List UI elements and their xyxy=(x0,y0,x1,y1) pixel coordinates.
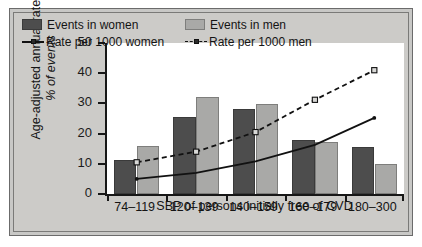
legend-label-rate-per-1000-men: Rate per 1000 men xyxy=(209,35,312,49)
line-marker-men xyxy=(134,160,139,165)
line-marker-women xyxy=(135,177,139,181)
y-axis-tick-label: 20 xyxy=(78,125,92,140)
y-axis-tick-label: 0 xyxy=(85,185,92,200)
legend-item-rate-per-1000-women: Rate per 1000 women xyxy=(22,34,164,49)
line-women xyxy=(137,118,375,179)
y-axis-tick-label: 40 xyxy=(78,64,92,79)
legend-label-events-in-women: Events in women xyxy=(47,18,138,32)
figure-plate: Age-adjusted annual rate, % of events 01… xyxy=(9,8,413,236)
plot-area xyxy=(105,43,404,196)
y-axis-tick-mark xyxy=(98,133,105,135)
legend-row-bars: Events in women Events in men xyxy=(22,17,312,32)
y-axis-tick-mark xyxy=(98,163,105,165)
legend-label-rate-per-1000-women: Rate per 1000 women xyxy=(46,35,164,49)
y-axis-tick-mark xyxy=(98,193,105,195)
figure-container: Age-adjusted annual rate, % of events 01… xyxy=(0,0,422,247)
line-series-layer xyxy=(107,43,406,194)
line-marker-men xyxy=(194,149,199,154)
line-men xyxy=(137,70,375,162)
legend-swatch-events-in-men-icon xyxy=(185,19,205,30)
legend-swatch-events-in-women-icon xyxy=(22,19,42,30)
legend-row-lines: Rate per 1000 women Rate per 1000 men xyxy=(22,34,312,49)
legend-solid-line-icon xyxy=(22,36,44,47)
figure-plate-inner: Age-adjusted annual rate, % of events 01… xyxy=(13,12,409,232)
line-marker-men xyxy=(253,130,258,135)
legend-item-rate-per-1000-men: Rate per 1000 men xyxy=(185,34,312,49)
y-axis-tick-label: 30 xyxy=(78,94,92,109)
y-axis-tick-mark xyxy=(98,102,105,104)
legend-dashed-line-icon xyxy=(185,36,207,47)
line-marker-women xyxy=(372,116,376,120)
legend-label-events-in-men: Events in men xyxy=(210,18,286,32)
y-axis-tick-label: 10 xyxy=(78,155,92,170)
legend-item-events-in-men: Events in men xyxy=(185,17,286,32)
legend-item-events-in-women: Events in women xyxy=(22,17,138,32)
line-marker-men xyxy=(372,68,377,73)
line-marker-men xyxy=(312,97,317,102)
y-axis-tick-mark xyxy=(98,72,105,74)
x-axis-title: SBP of persons initially free of CVD xyxy=(105,199,404,213)
